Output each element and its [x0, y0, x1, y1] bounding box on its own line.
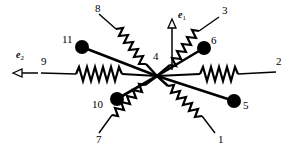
e2-arrowhead-icon [13, 69, 22, 77]
leader-line-7 [99, 115, 112, 133]
e1-subscript: 1 [182, 14, 186, 22]
node-label-1: 1 [218, 134, 224, 145]
e2-subscript: 2 [20, 54, 24, 62]
arm-to-node-7 [99, 76, 157, 133]
node-label-7: 7 [96, 134, 102, 145]
leader-line-1 [202, 116, 215, 133]
spring-coil-8 [116, 28, 146, 64]
node-label-10: 10 [92, 99, 103, 110]
arm-to-node-5 [157, 76, 241, 108]
spring-coil-2 [200, 67, 238, 81]
mass-dot-11 [75, 40, 89, 54]
leader-line-8 [99, 14, 116, 29]
leader-line-3 [199, 17, 219, 31]
arm-to-node-2 [157, 67, 276, 81]
basis-label-e1: e1 [178, 10, 186, 20]
node-label-2: 2 [276, 56, 282, 67]
mass-dot-5 [227, 94, 241, 108]
node-label-5: 5 [243, 100, 249, 111]
arm-segment-inner-2 [157, 74, 200, 76]
arm-segment-outer-2 [238, 72, 276, 74]
basis-vector-e2-arrow [13, 69, 38, 77]
node-label-3: 3 [222, 5, 228, 16]
arm-to-node-8 [99, 14, 157, 76]
node-label-8: 8 [95, 3, 101, 14]
arm-to-node-10 [110, 76, 157, 106]
e1-arrowhead-icon [168, 19, 176, 28]
node-label-4: 4 [153, 51, 159, 62]
basis-label-e2: e2 [16, 50, 24, 60]
arm-segment-outer-9 [41, 73, 76, 74]
node-label-11: 11 [62, 34, 73, 45]
mass-dot-6 [197, 41, 211, 55]
node-label-9: 9 [41, 56, 47, 67]
node-label-6: 6 [211, 35, 217, 46]
figure-canvas: 1 2 3 4 5 6 7 8 9 10 11 e1 e2 [0, 0, 294, 159]
diagram-svg [0, 0, 294, 159]
spring-coil-9 [76, 67, 122, 81]
mass-dot-10 [110, 92, 124, 106]
